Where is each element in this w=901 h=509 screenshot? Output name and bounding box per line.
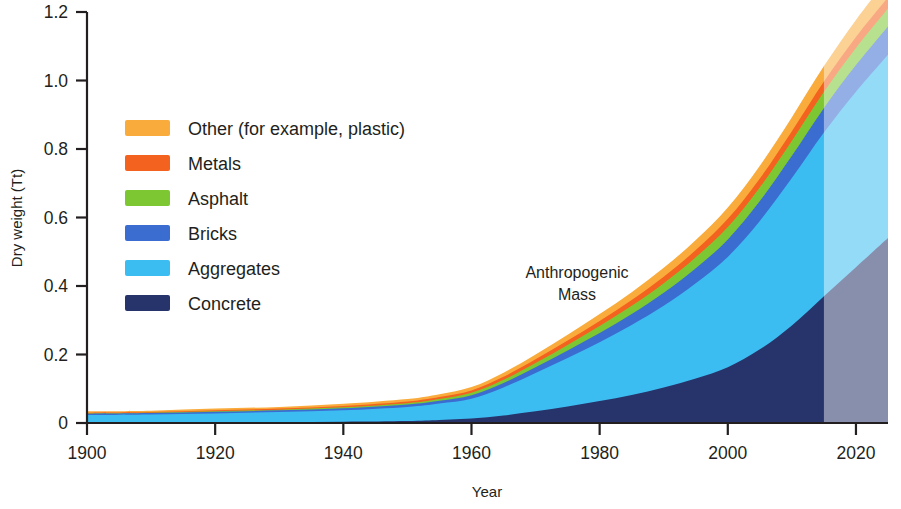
y-tick-label: 1.2 — [44, 2, 68, 22]
legend-swatch — [125, 260, 170, 276]
x-tick-label: 1940 — [324, 443, 363, 463]
y-tick-label: 0.8 — [44, 139, 68, 159]
y-tick-label: 0.4 — [44, 276, 69, 296]
chart-figure: 00.20.40.60.81.01.2 19001920194019601980… — [0, 0, 901, 509]
legend-swatch — [125, 190, 170, 206]
legend-swatch — [125, 155, 170, 171]
legend-swatch — [125, 295, 170, 311]
annotation-line-2: Mass — [558, 286, 596, 303]
y-axis-title: Dry weight (Tt) — [8, 169, 25, 267]
y-tick-label: 0 — [58, 413, 68, 433]
legend-swatch — [125, 225, 170, 241]
legend-label: Bricks — [188, 224, 237, 244]
stacked-area-chart: 00.20.40.60.81.01.2 19001920194019601980… — [0, 0, 901, 509]
x-tick-label: 1980 — [580, 443, 619, 463]
annotation-line-1: Anthropogenic — [525, 264, 628, 281]
y-tick-label: 1.0 — [44, 71, 69, 91]
x-tick-label: 1900 — [68, 443, 107, 463]
legend-swatch — [125, 120, 170, 136]
x-tick-label: 1920 — [196, 443, 235, 463]
y-tick-label: 0.6 — [44, 208, 68, 228]
projection-overlay — [824, 0, 889, 423]
legend-label: Concrete — [188, 294, 261, 314]
x-tick-label: 1960 — [452, 443, 491, 463]
x-axis-title: Year — [472, 483, 502, 500]
legend-label: Asphalt — [188, 189, 248, 209]
y-tick-label: 0.2 — [44, 345, 68, 365]
legend-label: Metals — [188, 154, 241, 174]
x-tick-label: 2000 — [708, 443, 747, 463]
legend-label: Other (for example, plastic) — [188, 119, 405, 139]
legend-label: Aggregates — [188, 259, 280, 279]
x-tick-label: 2020 — [836, 443, 875, 463]
